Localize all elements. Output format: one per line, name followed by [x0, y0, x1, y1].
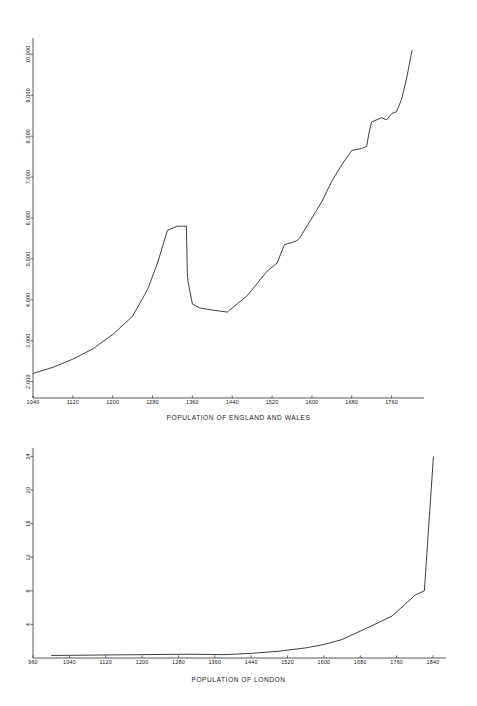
- x-tick-label: 1440: [245, 659, 258, 665]
- x-tick-label: 1520: [281, 659, 294, 665]
- y-tick-label: 5,000: [25, 252, 31, 267]
- x-tick-label: 1280: [146, 399, 159, 405]
- x-tick-label: 1200: [136, 659, 149, 665]
- x-tick-label: 1120: [100, 659, 112, 665]
- x-tick-label: 1280: [172, 659, 185, 665]
- x-tick-label: 1040: [63, 659, 76, 665]
- y-tick-label: 8: [25, 589, 31, 592]
- y-tick-label: 20: [25, 487, 31, 493]
- x-tick-label: 1840: [427, 659, 440, 665]
- chart-england-and-wales: 2,0003,0004,0005,0006,0007,0008,0009,000…: [0, 0, 477, 430]
- y-tick-label: 12: [25, 554, 31, 560]
- y-tick-label: 7,000: [25, 170, 31, 185]
- y-tick-label: 2,000: [25, 374, 31, 389]
- y-tick-label: 8,000: [25, 129, 31, 144]
- chart-england-axis-title: POPULATION OF ENGLAND AND WALES: [0, 414, 477, 421]
- y-tick-label: 4: [25, 623, 31, 626]
- y-tick-label: 6,000: [25, 211, 31, 226]
- y-tick-label: 10,000: [25, 46, 31, 64]
- y-tick-label: 16: [25, 520, 31, 526]
- chart-london-plot-area: 4812162024960104011201200128013601440152…: [0, 430, 477, 706]
- x-tick-label: 1760: [390, 659, 403, 665]
- data-series-line: [51, 456, 433, 655]
- y-tick-label: 3,000: [25, 333, 31, 348]
- y-tick-label: 9,000: [25, 88, 31, 103]
- x-tick-label: 1200: [106, 399, 119, 405]
- x-tick-label: 1600: [318, 659, 331, 665]
- data-series-line: [33, 50, 412, 373]
- x-tick-label: 1680: [354, 659, 367, 665]
- x-tick-label: 1360: [186, 399, 199, 405]
- chart-london: 4812162024960104011201200128013601440152…: [0, 430, 477, 706]
- x-tick-label: 960: [28, 659, 38, 665]
- chart-london-axis-title: POPULATION OF LONDON: [0, 676, 477, 683]
- x-tick-label: 1520: [266, 399, 279, 405]
- x-tick-label: 1760: [385, 399, 398, 405]
- x-tick-label: 1040: [27, 399, 40, 405]
- chart-england-plot-area: 2,0003,0004,0005,0006,0007,0008,0009,000…: [0, 0, 477, 430]
- y-tick-label: 4,000: [25, 293, 31, 308]
- x-tick-label: 1600: [305, 399, 318, 405]
- x-tick-label: 1360: [208, 659, 221, 665]
- x-tick-label: 1120: [67, 399, 79, 405]
- x-tick-label: 1680: [345, 399, 358, 405]
- page-canvas: 2,0003,0004,0005,0006,0007,0008,0009,000…: [0, 0, 477, 706]
- y-tick-label: 24: [25, 453, 31, 459]
- x-tick-label: 1440: [226, 399, 239, 405]
